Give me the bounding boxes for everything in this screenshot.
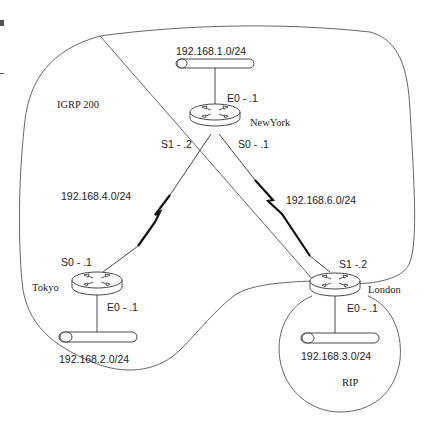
crop-mark <box>0 73 4 74</box>
ny-s1-label: S1 - .2 <box>161 138 192 150</box>
network-label-london-lan: 192.168.3.0/24 <box>301 350 371 362</box>
network-label-ny-lan: 192.168.1.0/24 <box>176 45 246 57</box>
router-name-newyork: NewYork <box>250 117 291 128</box>
network-label-ny-tokyo-wan: 192.168.4.0/24 <box>61 190 131 202</box>
ny-e0-label: E0 - .1 <box>227 92 258 104</box>
network-label-ny-london-wan: 192.168.6.0/24 <box>286 194 356 206</box>
igrp-region-label: IGRP 200 <box>57 99 99 110</box>
lan-segment-ny <box>176 59 254 68</box>
rip-region-label: RIP <box>342 377 359 388</box>
crop-mark <box>0 20 4 26</box>
router-name-london: London <box>368 284 401 295</box>
tokyo-s0-label: S0 - .1 <box>61 256 92 268</box>
tokyo-e0-label: E0 - .1 <box>107 301 138 313</box>
router-name-tokyo: Tokyo <box>32 282 59 293</box>
ny-s0-label: S0 - .1 <box>238 138 269 150</box>
london-e0-label: E0 - .1 <box>347 302 378 314</box>
wan-link-ny-tokyo <box>103 134 211 272</box>
lan-segment-tokyo <box>59 332 137 342</box>
network-label-tokyo-lan: 192.168.2.0/24 <box>59 353 129 365</box>
router-newyork[interactable] <box>190 104 240 126</box>
router-tokyo[interactable] <box>72 272 122 295</box>
network-diagram: 192.168.1.0/24 E0 - .1 NewYork S1 - .2 S… <box>0 0 433 430</box>
lan-segment-london <box>301 333 379 343</box>
router-london[interactable] <box>310 273 360 296</box>
london-s1-label: S1 -.2 <box>339 258 367 270</box>
